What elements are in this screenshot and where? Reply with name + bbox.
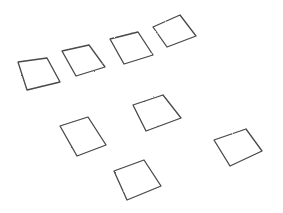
tile-7 bbox=[114, 160, 161, 200]
tile-3 bbox=[110, 32, 153, 64]
tile-4 bbox=[153, 15, 196, 47]
tiles-scene bbox=[0, 0, 283, 213]
tiles-group bbox=[18, 15, 262, 200]
tile-5 bbox=[60, 117, 106, 156]
tile-6 bbox=[133, 95, 181, 131]
tile-1 bbox=[18, 58, 60, 90]
tile-8 bbox=[214, 129, 262, 166]
sketch-canvas bbox=[0, 0, 283, 213]
tile-2 bbox=[62, 45, 105, 76]
